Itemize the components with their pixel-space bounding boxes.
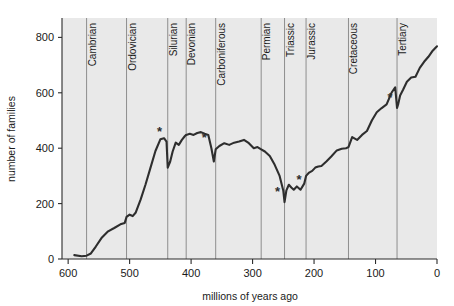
y-tick-label: 400 <box>36 142 54 154</box>
period-label-silurian: Silurian <box>168 23 179 56</box>
x-tick-label: 200 <box>305 267 323 279</box>
x-axis: 6005004003002001000 <box>59 259 440 279</box>
period-label-tertiary: Tertiary <box>397 23 408 56</box>
x-tick-label: 0 <box>434 267 440 279</box>
plot-background-group <box>62 18 437 259</box>
chart-canvas: CambrianOrdovicianSilurianDevonianCarbon… <box>0 0 454 306</box>
y-tick-label: 0 <box>48 253 54 265</box>
period-label-carboniferous: Carboniferous <box>216 23 227 86</box>
x-tick-label: 300 <box>243 267 261 279</box>
period-label-devonian: Devonian <box>186 23 197 65</box>
diversity-chart-figure: CambrianOrdovicianSilurianDevonianCarbon… <box>0 0 454 306</box>
x-tick-label: 600 <box>59 267 77 279</box>
x-tick-label: 500 <box>120 267 138 279</box>
plot-area-background <box>62 18 437 259</box>
x-tick-label: 100 <box>366 267 384 279</box>
period-label-ordovician: Ordovician <box>127 23 138 71</box>
y-axis-title: number of families <box>5 96 17 182</box>
y-tick-label: 600 <box>36 87 54 99</box>
period-label-triassic: Triassic <box>285 23 296 57</box>
period-label-permian: Permian <box>261 23 272 60</box>
y-axis: 0200400600800 <box>36 18 62 265</box>
period-label-jurassic: Jurassic <box>306 23 317 60</box>
period-label-cretaceous: Cretaceous <box>348 23 359 74</box>
x-axis-title: millions of years ago <box>202 290 298 302</box>
period-label-cambrian: Cambrian <box>87 23 98 66</box>
x-tick-label: 400 <box>182 267 200 279</box>
y-tick-label: 200 <box>36 198 54 210</box>
y-tick-label: 800 <box>36 31 54 43</box>
